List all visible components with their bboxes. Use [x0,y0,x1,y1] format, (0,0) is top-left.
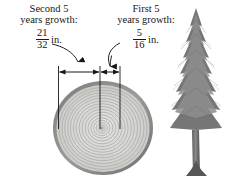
tree-root-flare [186,160,207,176]
leader-arrow-second-five-years [52,44,78,62]
diagram-artwork [0,0,234,184]
leader-arrow-first-five-years-head [110,56,111,67]
leader-arrows [52,43,120,67]
tree-foliage-highlight [175,14,217,118]
figure-canvas: Second 5 years growth: 21 32 in. First 5… [0,0,234,184]
conifer-tree-illustration [170,8,222,176]
tree-stump-cross-section [53,81,153,175]
stump-pith-center [101,127,103,129]
